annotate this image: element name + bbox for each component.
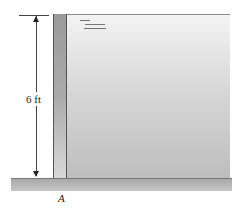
arrow-down-icon: [33, 171, 39, 177]
ground-base: [11, 178, 232, 191]
water-surface-mark: [80, 20, 90, 21]
water-body: [66, 14, 230, 179]
arrow-up-icon: [33, 16, 39, 22]
retaining-wall: [53, 14, 67, 178]
point-a-label: A: [58, 192, 65, 204]
water-surface-mark: [84, 28, 106, 29]
water-surface-mark: [85, 24, 105, 25]
height-dimension-label: 6 ft: [26, 92, 41, 106]
